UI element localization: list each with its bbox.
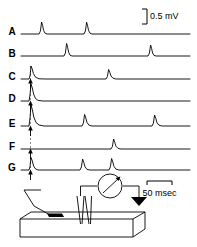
trace-label-c: C bbox=[8, 71, 15, 82]
stimulus-arrow-g bbox=[28, 170, 33, 180]
trace-label-a: A bbox=[8, 26, 15, 37]
ground-symbol bbox=[131, 197, 147, 206]
trace-row-e: E bbox=[9, 105, 190, 136]
trace-waveform-e bbox=[21, 105, 190, 126]
figure-canvas: 0.5 mV A B C D bbox=[0, 0, 197, 247]
vertical-scale-label: 0.5 mV bbox=[150, 11, 179, 21]
trace-waveform-d bbox=[21, 84, 190, 101]
trace-waveform-g bbox=[21, 158, 190, 171]
trace-label-g: G bbox=[8, 162, 16, 173]
trace-waveform-b bbox=[21, 44, 190, 57]
recording-setup-diagram bbox=[20, 174, 147, 237]
electrophysiology-figure: 0.5 mV A B C D bbox=[0, 0, 197, 247]
trace-waveform-f bbox=[21, 139, 190, 149]
meter-wiring bbox=[81, 186, 140, 197]
trace-label-f: F bbox=[9, 141, 15, 152]
stimulus-arrow-e bbox=[28, 126, 33, 136]
trace-row-f: F bbox=[9, 139, 190, 159]
vertical-scale-bar bbox=[142, 9, 147, 24]
time-scale-bar bbox=[147, 181, 172, 185]
trace-row-d: D bbox=[8, 84, 190, 111]
trace-waveform-c bbox=[21, 66, 190, 79]
trace-row-a: A bbox=[8, 22, 190, 37]
micropipette-electrode bbox=[77, 196, 92, 224]
meter bbox=[98, 174, 122, 198]
trace-row-g: G bbox=[8, 158, 190, 181]
time-scale-label: 50 msec bbox=[142, 188, 177, 198]
stimulus-arrow-f bbox=[28, 149, 33, 159]
trace-label-d: D bbox=[8, 93, 15, 104]
trace-row-b: B bbox=[8, 44, 190, 59]
trace-row-c: C bbox=[8, 66, 190, 89]
trace-label-e: E bbox=[9, 118, 16, 129]
trace-waveform-a bbox=[21, 22, 190, 34]
trace-label-b: B bbox=[8, 48, 15, 59]
